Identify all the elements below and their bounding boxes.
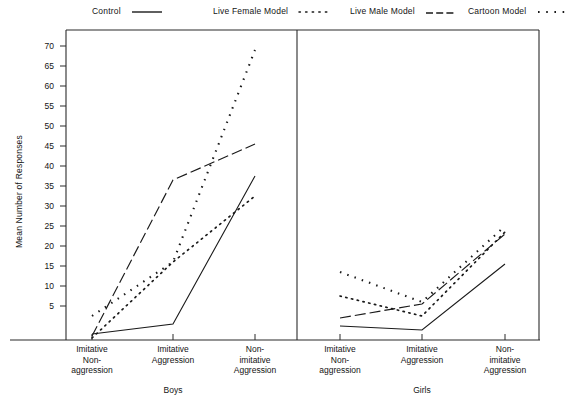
xcat-girls-non-imitative-aggression: Non- imitative Aggression: [468, 344, 542, 376]
ytick-label-50: 50: [32, 121, 54, 131]
xcat-line-2: imitative: [218, 355, 292, 366]
xcat-line-3: Aggression: [218, 365, 292, 376]
ytick-label-5: 5: [32, 301, 54, 311]
xcat-line-3: Aggression: [468, 365, 542, 376]
panel-frames: [10, 30, 540, 340]
ytick-label-10: 10: [32, 281, 54, 291]
xcat-line-2: Non-: [303, 355, 377, 366]
xcat-line-2: Aggression: [136, 355, 210, 366]
xcat-line-1: Non-: [218, 344, 292, 355]
ytick-label-55: 55: [32, 101, 54, 111]
line-girls-live-male-model: [340, 234, 505, 318]
ytick-label-60: 60: [32, 81, 54, 91]
panel-title-boys: Boys: [113, 385, 233, 395]
line-boys-cartoon-model: [92, 50, 255, 316]
xcat-boys-imitative-non-aggression: Imitative Non- aggression: [55, 344, 129, 376]
xcat-girls-imitative-non-aggression: Imitative Non- aggression: [303, 344, 377, 376]
xcat-line-2: Non-: [55, 355, 129, 366]
ytick-label-25: 25: [32, 221, 54, 231]
series-girls: [340, 226, 505, 330]
xcat-line-1: Non-: [468, 344, 542, 355]
line-girls-control: [340, 264, 505, 330]
ytick-label-40: 40: [32, 161, 54, 171]
y-ticks: [60, 46, 66, 306]
ytick-label-70: 70: [32, 41, 54, 51]
xcat-line-1: Imitative: [55, 344, 129, 355]
x-ticks: [92, 334, 505, 340]
xcat-line-1: Imitative: [136, 344, 210, 355]
xcat-line-3: aggression: [303, 365, 377, 376]
ytick-label-30: 30: [32, 201, 54, 211]
xcat-line-3: aggression: [55, 365, 129, 376]
xcat-boys-non-imitative-aggression: Non- imitative Aggression: [218, 344, 292, 376]
line-boys-control: [92, 176, 255, 334]
series-boys: [92, 50, 255, 338]
ytick-label-15: 15: [32, 261, 54, 271]
xcat-line-2: Aggression: [385, 355, 459, 366]
ytick-label-35: 35: [32, 181, 54, 191]
xcat-boys-imitative-aggression: Imitative Aggression: [136, 344, 210, 365]
xcat-line-1: Imitative: [303, 344, 377, 355]
panel-title-girls: Girls: [362, 385, 482, 395]
ytick-label-65: 65: [32, 61, 54, 71]
line-boys-live-male-model: [92, 144, 255, 336]
line-girls-cartoon-model: [340, 226, 505, 302]
ytick-label-20: 20: [32, 241, 54, 251]
xcat-line-1: Imitative: [385, 344, 459, 355]
ytick-label-45: 45: [32, 141, 54, 151]
line-boys-live-female-model: [92, 196, 255, 338]
xcat-line-2: imitative: [468, 355, 542, 366]
xcat-girls-imitative-aggression: Imitative Aggression: [385, 344, 459, 365]
